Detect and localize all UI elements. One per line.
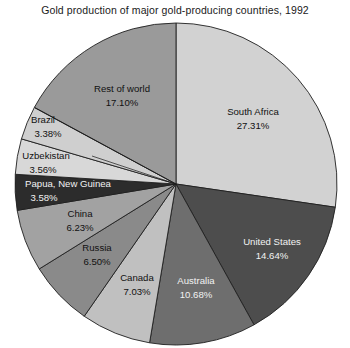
slice-value-rest-of-world: 17.10% xyxy=(106,97,139,108)
slice-label-australia: Australia xyxy=(177,275,215,286)
slice-value-brazil: 3.38% xyxy=(34,128,62,139)
slice-value-russia: 6.50% xyxy=(83,256,111,267)
slice-label-china: China xyxy=(67,208,93,219)
slice-value-australia: 10.68% xyxy=(180,289,213,300)
slice-label-russia: Russia xyxy=(82,242,112,253)
slice-label-south-africa: South Africa xyxy=(227,106,279,117)
slice-value-china: 6.23% xyxy=(66,222,94,233)
slice-value-papua-new-guinea: 3.58% xyxy=(30,192,58,203)
slice-label-canada: Canada xyxy=(120,272,154,283)
slice-label-brazil: Brazil xyxy=(31,114,55,125)
pie-chart-figure: Gold production of major gold-producing … xyxy=(0,0,350,348)
slice-label-rest-of-world: Rest of world xyxy=(94,83,150,94)
slice-label-papua-new-guinea: Papua, New Guinea xyxy=(25,178,112,189)
slice-value-uzbekistan: 3.56% xyxy=(29,164,57,175)
slice-label-united-states: United States xyxy=(243,236,301,247)
slice-value-south-africa: 27.31% xyxy=(237,120,270,131)
slice-label-uzbekistan: Uzbekistan xyxy=(22,150,69,161)
slice-value-canada: 7.03% xyxy=(123,286,151,297)
slice-value-united-states: 14.64% xyxy=(256,250,289,261)
pie-chart-canvas: South Africa27.31%United States14.64%Aus… xyxy=(0,0,350,348)
